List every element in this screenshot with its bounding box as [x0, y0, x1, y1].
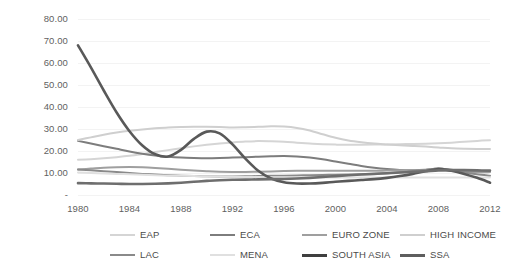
- series-line-south-asia: [78, 45, 490, 183]
- y-tick-label-2: 60.00: [0, 58, 68, 68]
- y-tick-label-3: 50.00: [0, 80, 68, 90]
- plot-svg: [0, 0, 523, 218]
- x-tick-label-3: 1992: [210, 204, 256, 214]
- line-chart: 80.0070.0060.0050.0040.0030.0020.0010.00…: [0, 0, 523, 275]
- legend-item-ssa[interactable]: SSA: [400, 246, 449, 264]
- x-tick-label-8: 2012: [467, 204, 513, 214]
- y-tick-label-7: 10.00: [0, 168, 68, 178]
- legend-label: MENA: [240, 250, 268, 260]
- legend-item-south-asia[interactable]: SOUTH ASIA: [302, 246, 391, 264]
- legend-swatch-icon: [110, 254, 135, 256]
- legend-label: EURO ZONE: [332, 230, 390, 240]
- legend-label: SOUTH ASIA: [332, 250, 391, 260]
- legend-label: EAP: [140, 230, 159, 240]
- legend-row-0: EAPECAEURO ZONEHIGH INCOME: [0, 226, 523, 244]
- legend-item-eca[interactable]: ECA: [210, 226, 260, 244]
- y-tick-label-8: -: [0, 190, 68, 200]
- legend-swatch-icon: [302, 254, 327, 257]
- y-tick-label-5: 30.00: [0, 124, 68, 134]
- legend-label: ECA: [240, 230, 260, 240]
- legend-swatch-icon: [210, 234, 235, 236]
- series-line-high-income: [78, 126, 490, 149]
- legend-swatch-icon: [210, 254, 235, 256]
- x-tick-label-4: 1996: [261, 204, 307, 214]
- legend-label: SSA: [430, 250, 449, 260]
- x-tick-label-5: 2000: [313, 204, 359, 214]
- legend-label: HIGH INCOME: [430, 230, 496, 240]
- x-tick-label-1: 1984: [107, 204, 153, 214]
- y-tick-label-6: 20.00: [0, 146, 68, 156]
- y-tick-label-4: 40.00: [0, 102, 68, 112]
- legend-item-lac[interactable]: LAC: [110, 246, 159, 264]
- legend-item-high-income[interactable]: HIGH INCOME: [400, 226, 496, 244]
- legend-swatch-icon: [400, 234, 425, 236]
- plot-area: 80.0070.0060.0050.0040.0030.0020.0010.00…: [0, 0, 523, 218]
- chart-legend: EAPECAEURO ZONEHIGH INCOMELACMENASOUTH A…: [0, 222, 523, 270]
- legend-swatch-icon: [110, 234, 135, 236]
- legend-item-eap[interactable]: EAP: [110, 226, 159, 244]
- legend-item-mena[interactable]: MENA: [210, 246, 268, 264]
- x-tick-label-2: 1988: [158, 204, 204, 214]
- x-tick-label-0: 1980: [55, 204, 101, 214]
- legend-label: LAC: [140, 250, 159, 260]
- x-tick-label-7: 2008: [416, 204, 462, 214]
- legend-row-1: LACMENASOUTH ASIASSA: [0, 246, 523, 264]
- y-tick-label-0: 80.00: [0, 14, 68, 24]
- x-tick-label-6: 2004: [364, 204, 410, 214]
- y-tick-label-1: 70.00: [0, 36, 68, 46]
- legend-swatch-icon: [302, 234, 327, 236]
- legend-swatch-icon: [400, 254, 425, 257]
- legend-item-euro-zone[interactable]: EURO ZONE: [302, 226, 390, 244]
